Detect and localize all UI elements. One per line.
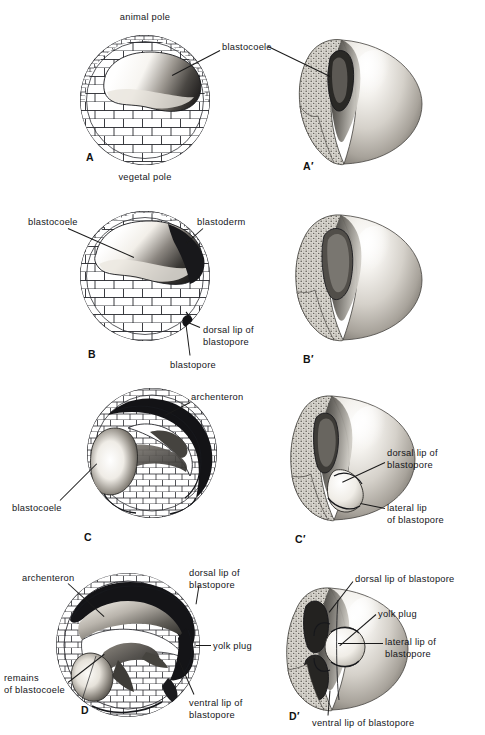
lateral-lip-leader: [338, 643, 383, 644]
panel-D-illustration: [56, 540, 200, 717]
label-D-dorsal-lip-of-blastopore: dorsal lip of blastopore: [189, 568, 240, 591]
yolk-plug-leader: [196, 645, 211, 646]
label-C-blastocoele: blastocoele: [12, 503, 62, 515]
panel-id-D-prime: D′: [289, 710, 300, 722]
label-D-yolk-plug: yolk plug: [213, 641, 252, 653]
panel-id-B: B: [88, 348, 96, 360]
label-D-remains-of-blastocoele: remains of blastocoele: [4, 673, 65, 696]
panel-B-illustration: [80, 175, 210, 341]
figure-artwork: [0, 0, 485, 735]
label-D-prime-lateral-lip-of-blastopore: lateral lip of blastopore: [385, 637, 436, 660]
panel-B-prime-illustration: [296, 215, 422, 341]
label-C-archenteron: archenteron: [191, 392, 243, 404]
panel-A-illustration: [80, 1, 210, 165]
label-D-ventral-lip-of-blastopore: ventral lip of blastopore: [189, 698, 243, 721]
label-D-prime-yolk-plug: yolk plug: [378, 609, 417, 621]
label-B-blastocoele: blastocoele: [28, 217, 78, 229]
panel-id-A-prime: A′: [303, 160, 314, 172]
label-B-blastoderm: blastoderm: [197, 217, 246, 229]
label-D-prime-ventral-lip-of-blastopore: ventral lip of blastopore: [312, 718, 414, 730]
panel-C-illustration: [87, 359, 217, 518]
label-C-prime-lateral-lip-of-blastopore: lateral lip of blastopore: [387, 503, 444, 526]
panel-id-B-prime: B′: [303, 353, 314, 365]
label-D-prime-dorsal-lip-of-blastopore: dorsal lip of blastopore: [355, 574, 455, 586]
label-B-dorsal-lip-of-blastopore: dorsal lip of blastopore: [203, 325, 254, 348]
label-C-prime-dorsal-lip-of-blastopore: dorsal lip of blastopore: [387, 448, 438, 471]
label-D-archenteron: archenteron: [22, 573, 74, 585]
panel-A-prime-illustration: [299, 40, 422, 165]
panel-id-C: C: [84, 531, 92, 543]
label-A-blastocoele: blastocoele: [222, 42, 272, 54]
label-A-vegetal-pole: vegetal pole: [118, 172, 171, 184]
label-B-blastopore: blastopore: [170, 360, 216, 372]
panel-id-D: D: [81, 704, 89, 716]
panel-id-C-prime: C′: [295, 533, 306, 545]
panel-id-A: A: [86, 151, 94, 163]
label-A-animal-pole: animal pole: [120, 12, 170, 24]
gastrulation-figure: animal polevegetal poleblastocoeleAA′bla…: [0, 0, 485, 735]
